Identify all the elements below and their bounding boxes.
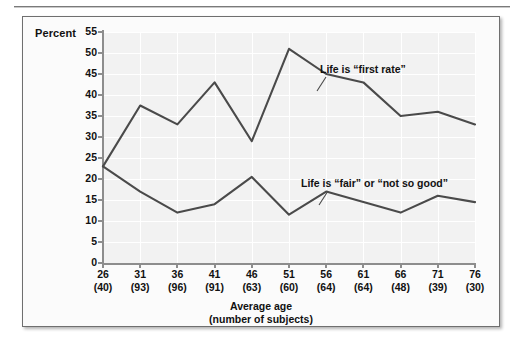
x-tick-age: 76 [469, 268, 481, 280]
series-line-first-rate [103, 49, 475, 167]
series-line-fair-not-so-good [103, 166, 475, 214]
y-axis-tick-mark [98, 136, 103, 138]
x-axis-tick-mark [437, 263, 439, 268]
y-axis-tick-mark [98, 115, 103, 117]
x-axis-tick-mark [362, 263, 364, 268]
x-axis-tick-mark [288, 263, 290, 268]
y-axis-tick-mark [98, 94, 103, 96]
x-tick-age: 56 [320, 268, 332, 280]
y-axis-tick-mark [98, 220, 103, 222]
leader-line-first-rate [317, 77, 326, 91]
y-axis-tick-mark [98, 199, 103, 201]
x-tick-age: 26 [97, 268, 109, 280]
series-annotation-first-rate: Life is “first rate” [320, 63, 406, 75]
x-axis-tick-mark [176, 263, 178, 268]
x-axis-tick-mark [474, 263, 476, 268]
x-tick-age: 36 [172, 268, 184, 280]
y-axis-tick-mark [98, 178, 103, 180]
x-axis-tick-mark [251, 263, 253, 268]
x-axis-tick-mark [325, 263, 327, 268]
x-axis-tick-mark [139, 263, 141, 268]
x-tick-age: 46 [246, 268, 258, 280]
chart-figure: Percent 0510152025303540455055 Life is “… [22, 16, 500, 327]
x-tick-age: 61 [358, 268, 370, 280]
y-axis-tick-mark [98, 52, 103, 54]
y-axis-tick-mark [98, 157, 103, 159]
x-tick-age: 66 [395, 268, 407, 280]
x-tick-age: 51 [283, 268, 295, 280]
x-axis-tick-label: 76(30) [452, 268, 498, 294]
x-tick-subject-count: (30) [452, 281, 498, 294]
x-axis-title-line1: Average age [230, 300, 292, 312]
series-annotation-fair-not-so-good: Life is “fair” or “not so good” [301, 177, 448, 189]
x-tick-age: 41 [209, 268, 221, 280]
y-axis-tick-mark [98, 73, 103, 75]
x-axis-tick-mark [102, 263, 104, 268]
x-axis-title-line2: (number of subjects) [23, 313, 499, 326]
y-axis-tick-mark [98, 241, 103, 243]
x-axis-tick-mark [400, 263, 402, 268]
x-tick-age: 71 [432, 268, 444, 280]
x-axis-title: Average age (number of subjects) [23, 300, 499, 326]
x-tick-age: 31 [134, 268, 146, 280]
page-top-rule [14, 6, 510, 8]
y-axis-tick-mark [98, 31, 103, 33]
x-axis-tick-mark [214, 263, 216, 268]
